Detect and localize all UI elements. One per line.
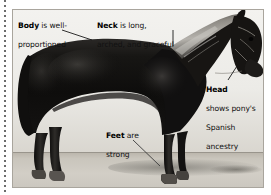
lead-rope	[215, 71, 242, 73]
callout-feet: Feet are strong	[106, 122, 139, 160]
hoof-hind-far	[32, 170, 46, 179]
callout-head-line4: ancestry	[206, 142, 238, 151]
callout-body-line2: proportioned	[18, 40, 66, 49]
figure-panel: Body is well- proportioned Neck is long,…	[0, 0, 271, 195]
callout-head-line2: shows pony's	[206, 104, 256, 113]
callout-body-term: Body	[18, 21, 39, 30]
callout-neck-rest: is long,	[118, 21, 147, 30]
callout-neck: Neck is long, arched, and graceful	[97, 12, 174, 50]
callout-feet-term: Feet	[106, 131, 124, 140]
callout-head-line3: Spanish	[206, 123, 235, 132]
fore-leg-near	[164, 134, 175, 175]
hindquarter-highlight	[26, 53, 70, 105]
hoof-hind-near	[49, 171, 65, 181]
hoof-fore-near	[161, 174, 177, 184]
left-dotted-rule	[4, 0, 6, 195]
callout-body-rest: is well-	[39, 21, 67, 30]
hind-leg-far	[34, 133, 48, 171]
hind-leg-near	[49, 127, 62, 172]
callout-neck-line2: arched, and graceful	[97, 40, 174, 49]
hoof-fore-far	[176, 171, 189, 180]
fore-leg-far	[177, 131, 188, 172]
callout-feet-rest: are	[124, 131, 138, 140]
callout-head-term: Head	[206, 85, 228, 94]
callout-body: Body is well- proportioned	[18, 12, 67, 50]
horse-eye	[249, 37, 254, 41]
callout-neck-term: Neck	[97, 21, 118, 30]
callout-head: Head shows pony's Spanish ancestry	[206, 76, 256, 151]
callout-feet-line2: strong	[106, 150, 130, 159]
horse-muzzle	[245, 59, 264, 77]
